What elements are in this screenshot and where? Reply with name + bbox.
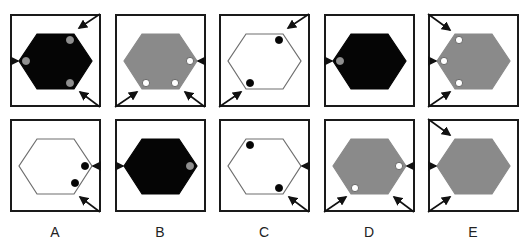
panel-d-top	[324, 14, 415, 107]
dot-gray	[66, 36, 73, 43]
dot-white	[455, 36, 462, 43]
panel-a-bottom	[10, 119, 101, 212]
dot-white	[395, 162, 402, 169]
dot-black	[71, 179, 78, 186]
dot-white	[440, 57, 447, 64]
arrow-icon	[324, 197, 346, 212]
arrow-icon	[219, 92, 241, 107]
option-label-b: B	[140, 224, 180, 240]
panel-c-top	[219, 14, 310, 107]
arrow-icon	[289, 197, 309, 212]
arrow-icon	[428, 92, 450, 107]
dot-gray	[186, 162, 193, 169]
dot-black	[246, 79, 253, 86]
dot-white	[171, 79, 178, 86]
option-label-e: E	[453, 224, 493, 240]
arrow-icon	[394, 197, 414, 212]
dot-black	[81, 162, 88, 169]
hexagon-shape	[228, 34, 301, 89]
arrow-icon	[80, 197, 100, 212]
hexagon-shape	[228, 139, 301, 194]
panel-a-top	[10, 14, 101, 107]
dot-black	[275, 184, 282, 191]
panel-b-top	[115, 14, 206, 107]
arrow-icon	[428, 119, 450, 135]
dot-gray	[66, 79, 73, 86]
panel-c-bottom	[219, 119, 310, 212]
arrow-icon	[80, 92, 100, 107]
panel-e-bottom	[428, 119, 519, 212]
arrow-icon	[288, 14, 309, 28]
panel-b-bottom	[115, 119, 206, 212]
arrow-icon	[79, 14, 100, 28]
dot-gray	[336, 57, 343, 64]
option-label-a: A	[35, 224, 75, 240]
option-label-d: D	[349, 224, 389, 240]
panel-e-top	[428, 14, 519, 107]
panel-d-bottom	[324, 119, 415, 212]
dot-white	[142, 79, 149, 86]
arrow-icon	[428, 14, 450, 30]
dot-white	[455, 79, 462, 86]
arrow-icon	[115, 92, 137, 107]
arrow-icon	[428, 197, 450, 212]
option-label-c: C	[244, 224, 284, 240]
hexagon-shape	[437, 139, 510, 194]
arrow-icon	[185, 92, 205, 107]
dot-black	[275, 36, 282, 43]
dot-white	[186, 57, 193, 64]
dot-white	[351, 184, 358, 191]
dot-black	[246, 141, 253, 148]
dot-gray	[22, 57, 29, 64]
